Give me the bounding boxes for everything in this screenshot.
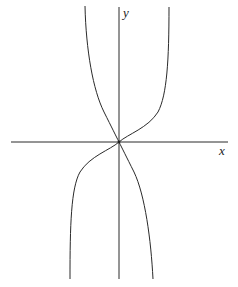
graph: y x [0,0,238,287]
y-axis-label: y [121,5,129,20]
x-axis-label: x [218,143,225,158]
origin-point [118,141,121,144]
